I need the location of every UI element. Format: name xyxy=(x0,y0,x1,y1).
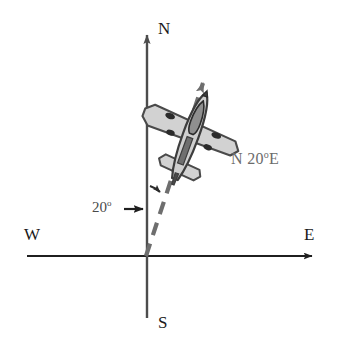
axis-label-north: N xyxy=(158,20,170,37)
bearing-label: N 20oE xyxy=(231,151,279,167)
bearing-label-n: N xyxy=(231,150,243,167)
bearing-label-e: E xyxy=(269,150,279,167)
bearing-label-degrees: 20 xyxy=(247,150,264,167)
axis-label-south: S xyxy=(158,314,167,331)
airplane-icon xyxy=(124,73,254,202)
airplane-nose-spinner xyxy=(203,90,210,97)
diagram-canvas xyxy=(0,0,338,350)
axis-label-west: W xyxy=(24,226,40,243)
angle-value-label: 20o xyxy=(92,200,112,215)
angle-arc-arrow-icon xyxy=(150,186,160,192)
axis-label-east: E xyxy=(304,226,314,243)
angle-degree-symbol: o xyxy=(107,198,112,208)
angle-value-number: 20 xyxy=(92,199,107,215)
bearing-diagram-figure: N S W E N 20oE 20o xyxy=(0,0,338,350)
